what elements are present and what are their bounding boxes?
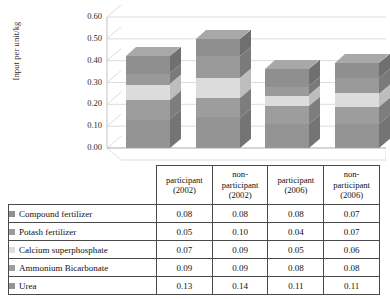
plot-area: Input per unit/kg 0.600.500.400.300.200.… bbox=[0, 0, 386, 168]
y-tick-label-4: 0.20 bbox=[72, 99, 102, 107]
legend-item-0: Compound fertilizer bbox=[9, 205, 157, 223]
table-row: Urea0.130.140.110.11 bbox=[9, 277, 380, 295]
y-tick-label-0: 0.60 bbox=[72, 12, 102, 20]
bar-3-segment-compound-fertilizer bbox=[335, 63, 379, 78]
table-row: Compound fertilizer0.080.080.080.07 bbox=[9, 205, 380, 223]
table-row: Potash fertilizer0.050.100.040.07 bbox=[9, 223, 380, 241]
bar-0-segment-compound-fertilizer bbox=[126, 56, 170, 73]
legend-swatch-icon-0 bbox=[9, 211, 15, 217]
column-header-3-line3: (2006) bbox=[324, 190, 379, 201]
column-header-1-line2: participant bbox=[213, 180, 268, 191]
bar-column-2 bbox=[265, 69, 309, 148]
data-table: participant (2002) non- participant (200… bbox=[8, 165, 380, 295]
column-header-2-line2: (2006) bbox=[268, 185, 323, 196]
column-header-1-line3: (2002) bbox=[213, 190, 268, 201]
legend-swatch-icon-3 bbox=[9, 265, 15, 271]
bar-2-segment-potash-fertilizer bbox=[265, 87, 309, 96]
y-tick-label-2: 0.40 bbox=[72, 56, 102, 64]
bar-0-segment-potash-fertilizer bbox=[126, 74, 170, 85]
cell-r2-c1: 0.09 bbox=[212, 241, 268, 259]
bar-2-segment-calcium-superphosphate bbox=[265, 96, 309, 107]
legend-label-1: Potash fertilizer bbox=[19, 227, 76, 237]
cell-r1-c0: 0.05 bbox=[157, 223, 213, 241]
column-header-1-line1: non- bbox=[213, 169, 268, 180]
bar-3-side-face bbox=[379, 54, 390, 148]
cell-r2-c3: 0.06 bbox=[324, 241, 380, 259]
bar-column-1 bbox=[196, 39, 240, 148]
bar-2-segment-urea bbox=[265, 124, 309, 148]
legend-item-3: Ammonium Bicarbonate bbox=[9, 259, 157, 277]
cell-r1-c1: 0.10 bbox=[212, 223, 268, 241]
cell-r0-c0: 0.08 bbox=[157, 205, 213, 223]
bar-0-side-face bbox=[170, 47, 181, 148]
y-tick-label-1: 0.50 bbox=[72, 34, 102, 42]
bar-1-segment-urea bbox=[196, 117, 240, 148]
legend-item-2: Calcium superphosphate bbox=[9, 241, 157, 259]
column-header-0-line1: participant bbox=[157, 175, 212, 186]
table-header-row: participant (2002) non- participant (200… bbox=[9, 166, 380, 205]
bar-1-segment-ammonium-bicarbonate bbox=[196, 98, 240, 118]
cell-r4-c2: 0.11 bbox=[268, 277, 324, 295]
bar-2-side-face bbox=[309, 60, 320, 148]
bar-3-front-face bbox=[335, 63, 379, 148]
bar-1-segment-calcium-superphosphate bbox=[196, 78, 240, 98]
table-row: Ammonium Bicarbonate0.090.090.080.08 bbox=[9, 259, 380, 277]
column-header-3-line2: participant bbox=[324, 180, 379, 191]
cell-r4-c3: 0.11 bbox=[324, 277, 380, 295]
cell-r1-c3: 0.07 bbox=[324, 223, 380, 241]
plot-grid bbox=[0, 0, 386, 168]
bar-2-segment-compound-fertilizer bbox=[265, 69, 309, 86]
legend-label-2: Calcium superphosphate bbox=[19, 245, 108, 255]
cell-r3-c3: 0.08 bbox=[324, 259, 380, 277]
legend-swatch-icon-4 bbox=[9, 283, 15, 289]
legend-item-1: Potash fertilizer bbox=[9, 223, 157, 241]
bar-3-segment-ammonium-bicarbonate bbox=[335, 107, 379, 124]
cell-r3-c0: 0.09 bbox=[157, 259, 213, 277]
y-axis-label: Input per unit/kg bbox=[11, 0, 21, 111]
cell-r0-c1: 0.08 bbox=[212, 205, 268, 223]
column-header-2-line1: participant bbox=[268, 175, 323, 186]
cell-r2-c2: 0.05 bbox=[268, 241, 324, 259]
bar-3-segment-calcium-superphosphate bbox=[335, 93, 379, 106]
cell-r1-c2: 0.04 bbox=[268, 223, 324, 241]
bar-3-segment-potash-fertilizer bbox=[335, 78, 379, 93]
cell-r2-c0: 0.07 bbox=[157, 241, 213, 259]
cell-r4-c1: 0.14 bbox=[212, 277, 268, 295]
y-tick-label-3: 0.30 bbox=[72, 78, 102, 86]
legend-swatch-icon-2 bbox=[9, 247, 15, 253]
column-header-0-line2: (2002) bbox=[157, 185, 212, 196]
bar-0-segment-calcium-superphosphate bbox=[126, 85, 170, 100]
column-header-3: non- participant (2006) bbox=[324, 166, 380, 205]
bar-2-segment-ammonium-bicarbonate bbox=[265, 106, 309, 123]
bar-1-front-face bbox=[196, 39, 240, 148]
bar-2-front-face bbox=[265, 69, 309, 148]
bar-0-front-face bbox=[126, 56, 170, 148]
legend-item-4: Urea bbox=[9, 277, 157, 295]
y-tick-label-5: 0.10 bbox=[72, 121, 102, 129]
bar-0-segment-urea bbox=[126, 120, 170, 148]
bar-1-side-face bbox=[240, 30, 251, 148]
bar-1-segment-potash-fertilizer bbox=[196, 56, 240, 78]
bar-column-0 bbox=[126, 56, 170, 148]
bar-1-segment-compound-fertilizer bbox=[196, 39, 240, 56]
bar-3-segment-urea bbox=[335, 124, 379, 148]
cell-r3-c1: 0.09 bbox=[212, 259, 268, 277]
table-row: Calcium superphosphate0.070.090.050.06 bbox=[9, 241, 380, 259]
legend-label-3: Ammonium Bicarbonate bbox=[19, 263, 108, 273]
cell-r0-c2: 0.08 bbox=[268, 205, 324, 223]
table-corner-cell bbox=[9, 166, 157, 205]
bar-0-segment-ammonium-bicarbonate bbox=[126, 100, 170, 120]
cell-r4-c0: 0.13 bbox=[157, 277, 213, 295]
table-body: Compound fertilizer0.080.080.080.07Potas… bbox=[9, 205, 380, 295]
cell-r0-c3: 0.07 bbox=[324, 205, 380, 223]
legend-swatch-icon-1 bbox=[9, 229, 15, 235]
cell-r3-c2: 0.08 bbox=[268, 259, 324, 277]
bar-column-3 bbox=[335, 63, 379, 148]
column-header-0: participant (2002) bbox=[157, 166, 213, 205]
column-header-3-line1: non- bbox=[324, 169, 379, 180]
column-header-1: non- participant (2002) bbox=[212, 166, 268, 205]
legend-label-0: Compound fertilizer bbox=[19, 209, 92, 219]
column-header-2: participant (2006) bbox=[268, 166, 324, 205]
legend-label-4: Urea bbox=[19, 281, 37, 291]
